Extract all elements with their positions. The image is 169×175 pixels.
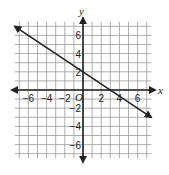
x-tick-label: −6 [23,93,35,104]
coordinate-plane: −6−4−2246642−2−4−6 x y O [0,0,169,175]
y-tick-label: −2 [70,103,82,114]
x-tick-label: 6 [135,93,141,104]
x-axis-label: x [157,84,163,96]
y-tick-label: 4 [75,49,81,60]
x-tick-label: 2 [98,93,104,104]
y-tick-label: 6 [75,30,81,41]
origin-label: O [75,91,83,103]
y-tick-label: −4 [70,121,82,132]
y-tick-label: −6 [70,140,82,151]
x-tick-label: −4 [41,93,53,104]
y-axis-label: y [78,5,84,17]
